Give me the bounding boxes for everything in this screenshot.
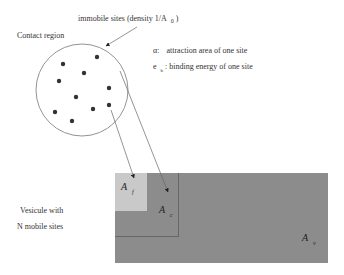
arrow-to-af: [111, 110, 134, 178]
contact-region-circle: [36, 44, 128, 136]
immobile-site-dots: [53, 55, 111, 123]
arrow-to-ac: [120, 71, 168, 192]
diagram-graphics: [0, 0, 344, 275]
immobile-sites-arrow: [106, 27, 137, 46]
